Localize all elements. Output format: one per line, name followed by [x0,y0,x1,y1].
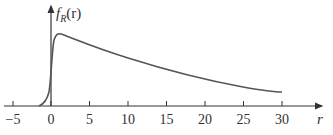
density-curve [39,34,282,106]
x-ticks [13,101,282,106]
x-tick-labels: −5 0 5 10 15 20 25 30 [6,112,289,127]
svg-text:−5: −5 [6,112,21,127]
svg-text:30: 30 [275,112,289,127]
chart: −5 0 5 10 15 20 25 30 r fR(r) [0,0,333,135]
svg-text:10: 10 [121,112,135,127]
svg-text:25: 25 [237,112,251,127]
x-axis-label: r [317,111,323,127]
svg-text:5: 5 [86,112,93,127]
svg-text:20: 20 [198,112,212,127]
y-axis-label: fR(r) [56,5,81,24]
svg-text:0: 0 [48,112,55,127]
svg-text:15: 15 [160,112,174,127]
